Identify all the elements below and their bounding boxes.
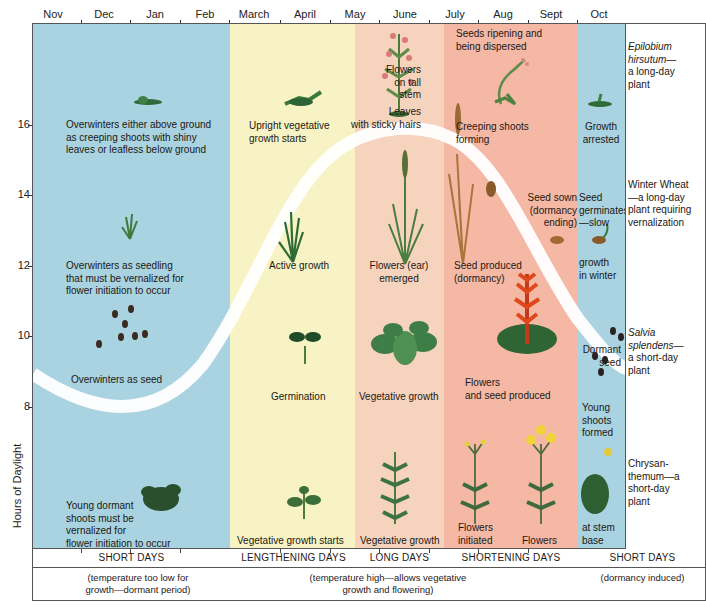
month-label: April xyxy=(280,8,330,20)
chrysanthemum-vegetative-icon xyxy=(381,452,409,524)
epilobium-oct-label: Growtharrested xyxy=(579,121,623,146)
tick xyxy=(280,549,281,553)
tick xyxy=(180,549,181,553)
wheat-winter-label: Overwinters as seedlingthat must be vern… xyxy=(66,260,184,298)
notes-row: (temperature too low forgrowth—dormant p… xyxy=(32,568,706,601)
chrysanthemum-flowers-icon xyxy=(526,425,556,524)
legend-chrysanthemum: Chrysan- themum—a short-day plant xyxy=(628,458,680,508)
salvia-germination-icon xyxy=(289,332,321,364)
tick xyxy=(478,549,479,553)
note-growing: (temperature high—allows vegetativegrowt… xyxy=(273,572,503,596)
legend-wheat: Winter Wheat —a long-day plant requiring… xyxy=(628,179,691,229)
epilobium-creeping-shoot-icon xyxy=(134,96,162,105)
y-tick-label: 16 xyxy=(0,118,30,130)
chrysanthemum-initiated-icon xyxy=(461,440,489,525)
chrysanthemum-winter-label: Young dormantshoots must bevernalized fo… xyxy=(66,500,171,549)
tick xyxy=(429,549,430,553)
period-long-days: LONG DAYS xyxy=(355,552,444,563)
y-tick-label: 10 xyxy=(0,329,30,341)
y-tick-label: 8 xyxy=(0,400,30,412)
salvia-spring-label: Germination xyxy=(271,391,325,404)
month-label: July xyxy=(430,8,480,20)
period-short-days: SHORT DAYS xyxy=(33,552,230,563)
chrysanthemum-stem-base-label: at stembase xyxy=(582,522,615,547)
legend-salvia: Salvia splendens— a short-day plant xyxy=(628,327,684,377)
month-label: Sept xyxy=(526,8,576,20)
month-label: Feb xyxy=(180,8,230,20)
month-label: Nov xyxy=(28,8,78,20)
epilobium-winter-label: Overwinters either above groundas creepi… xyxy=(66,119,211,157)
wheat-seed-produced-label: Seed produced(dormancy) xyxy=(454,260,522,285)
salvia-flowering-icon xyxy=(497,274,557,354)
chrysanthemum-young-shoots-label: Youngshootsformed xyxy=(582,402,613,440)
chrysanthemum-flowers-label: Flowers xyxy=(522,535,557,548)
epilobium-flowers-label: Flowerson tallstem xyxy=(373,64,421,102)
tick xyxy=(130,549,131,553)
wheat-seed-sown-label: Seed sown(dormancyending) xyxy=(501,192,577,230)
tick xyxy=(528,549,529,553)
epilobium-seeds-label: Seeds ripening andbeing dispersed xyxy=(456,28,542,53)
epilobium-leaves-label: Leaveswith sticky hairs xyxy=(341,106,421,131)
salvia-winter-label: Overwinters as seed xyxy=(71,374,162,387)
wheat-summer-label: Flowers (ear)emerged xyxy=(359,260,439,285)
period-shortening-days: SHORTENING DAYS xyxy=(444,552,578,563)
chrysanthemum-spring-label: Vegetative growth starts xyxy=(237,535,344,548)
month-label: June xyxy=(380,8,430,20)
epilobium-arrested-shoot-icon xyxy=(588,94,612,107)
wheat-seed-icon xyxy=(486,181,496,197)
tick xyxy=(379,549,380,553)
month-label: Aug xyxy=(478,8,528,20)
chrysanthemum-summer-label: Vegetative growth xyxy=(360,535,440,548)
tick xyxy=(81,549,82,553)
tick xyxy=(330,549,331,553)
legend-epilobium: Epilobium hirsutum— a long-day plant xyxy=(628,41,676,91)
period-lengthening-days: LENGTHENING DAYS xyxy=(230,552,357,563)
wheat-germinates-label: Seedgerminates—slow xyxy=(579,192,626,230)
wheat-sown-seed-icon xyxy=(550,236,564,244)
salvia-autumn-label: Flowersand seed produced xyxy=(465,377,551,402)
chrysanthemum-young-shoots-icon xyxy=(581,448,612,514)
note-autumn: (dormancy induced) xyxy=(578,572,706,584)
period-short-days-autumn: SHORT DAYS xyxy=(578,552,706,563)
wheat-spring-label: Active growth xyxy=(269,260,329,273)
month-label: March xyxy=(229,8,279,20)
season-chart: Overwinters either above groundas creepi… xyxy=(32,23,626,549)
month-label: Oct xyxy=(574,8,624,20)
chrysanthemum-initiated-label: Flowersinitiated xyxy=(458,522,493,547)
y-tick-label: 14 xyxy=(0,188,30,200)
epilobium-dispersing-plant-icon xyxy=(495,58,529,104)
salvia-vegetative-icon xyxy=(371,321,437,365)
month-label: May xyxy=(330,8,380,20)
epilobium-upright-shoot-icon xyxy=(285,92,321,106)
month-label: Dec xyxy=(79,8,129,20)
wheat-growth-winter-label: growthin winter xyxy=(579,257,616,282)
month-label: Jan xyxy=(130,8,180,20)
y-tick-label: 12 xyxy=(0,259,30,271)
salvia-seeds-icon xyxy=(96,305,148,348)
epilobium-spring-label: Upright vegetativegrowth starts xyxy=(249,120,330,145)
salvia-dormant-label: Dormantseed xyxy=(579,344,621,369)
chrysanthemum-vegetative-start-icon xyxy=(287,486,321,519)
species-legend: Epilobium hirsutum— a long-day plant Win… xyxy=(626,23,706,549)
wheat-seedling-icon xyxy=(122,214,137,239)
wheat-ear-icon xyxy=(389,150,423,264)
salvia-summer-label: Vegetative growth xyxy=(359,391,439,404)
note-winter: (temperature too low forgrowth—dormant p… xyxy=(53,572,223,596)
epilobium-creeping-label: Creeping shootsforming xyxy=(456,121,529,146)
period-row: SHORT DAYS LENGTHENING DAYS LONG DAYS SH… xyxy=(32,549,706,568)
y-axis-label: Hours of Daylight xyxy=(11,441,23,531)
